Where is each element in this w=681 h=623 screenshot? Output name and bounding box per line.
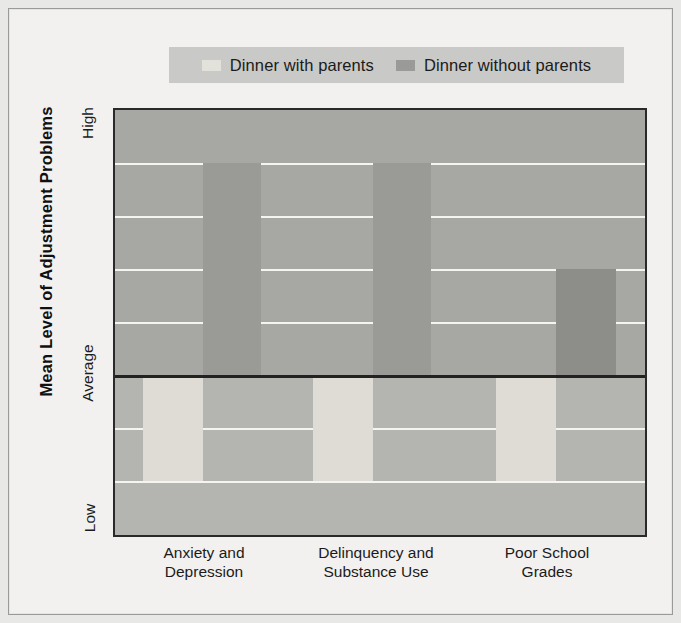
plot-area [113,108,647,537]
bar-dinner-with-parents-grades [496,375,556,481]
y-tick-label-low: Low [81,488,99,548]
bar-dinner-without-parents-anxiety [203,163,261,375]
x-tick-label-delinquency-and-substance-use: Delinquency and Substance Use [291,543,461,582]
y-tick-label-high: High [79,93,97,153]
average-baseline [115,375,645,378]
y-tick-label-average: Average [79,328,97,418]
chart-legend: Dinner with parents Dinner without paren… [169,47,624,83]
figure-frame: Dinner with parents Dinner without paren… [8,8,673,615]
y-axis-title: Mean Level of Adjustment Problems [37,52,56,452]
x-tick-line-2: Grades [462,562,632,581]
bar-dinner-without-parents-delinquency [373,163,431,375]
legend-entry-dinner-without-parents: Dinner without parents [396,56,591,75]
legend-swatch-light [202,60,221,71]
x-tick-line-2: Substance Use [291,562,461,581]
gridline-1 [115,481,645,483]
bar-dinner-without-parents-grades [556,269,616,375]
bar-dinner-with-parents-delinquency [313,375,373,481]
bar-dinner-with-parents-anxiety [143,375,203,481]
x-tick-line-1: Anxiety and [119,543,289,562]
x-tick-line-2: Depression [119,562,289,581]
x-tick-line-1: Poor School [462,543,632,562]
legend-entry-dinner-with-parents: Dinner with parents [202,56,374,75]
x-tick-line-1: Delinquency and [291,543,461,562]
legend-label-dinner-with-parents: Dinner with parents [230,56,374,75]
x-tick-label-anxiety-and-depression: Anxiety and Depression [119,543,289,582]
legend-swatch-dark [396,60,415,71]
x-tick-label-poor-school-grades: Poor School Grades [462,543,632,582]
legend-label-dinner-without-parents: Dinner without parents [424,56,591,75]
